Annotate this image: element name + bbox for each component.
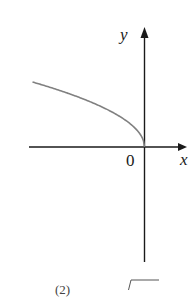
y-axis-arrow-icon	[141, 27, 149, 38]
y-axis-label: y	[120, 26, 128, 43]
sqrt-symbol-icon	[128, 280, 159, 290]
x-axis-label: x	[180, 151, 188, 168]
origin-label: 0	[126, 152, 135, 169]
sqrt-curve	[33, 82, 145, 147]
next-item-label: (2)	[55, 283, 70, 296]
